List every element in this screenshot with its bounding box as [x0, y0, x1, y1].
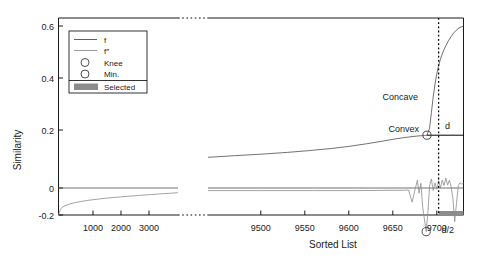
- left-x-tick-label-2: 3000: [139, 223, 159, 233]
- legend-label-min: Min.: [104, 70, 119, 79]
- series-fpp-right-curve: [208, 178, 463, 231]
- legend-patch-selected-icon: [74, 84, 98, 91]
- axis-break: [178, 18, 208, 215]
- y-tick-label-4: -0.2: [38, 211, 54, 221]
- series-fpp-left-curve: [59, 193, 178, 215]
- y-tick-label-0: 0.6: [41, 22, 54, 32]
- annotation-convex: Convex: [388, 124, 419, 134]
- right-panel: 9500 9550 9600 9650 9700 Concave Convex …: [208, 18, 464, 236]
- y-tick-label-1: 0.4: [41, 74, 54, 84]
- right-x-tick-label-1: 9550: [295, 223, 315, 233]
- selected-region-patch: [439, 211, 464, 216]
- series-f-right-curve: [208, 26, 463, 157]
- left-x-tick-label-1: 2000: [111, 223, 131, 233]
- annotation-d-half: d/2: [442, 225, 455, 235]
- right-x-tick-label-0: 9500: [251, 223, 271, 233]
- left-x-ticks: [93, 211, 149, 216]
- x-axis-title: Sorted List: [309, 239, 357, 250]
- legend: f f″ Knee Min. Selected: [69, 31, 147, 93]
- y-tick-label-2: 0.2: [41, 126, 54, 136]
- right-x-ticks: [261, 211, 437, 216]
- y-axis-title: Similarity: [12, 130, 23, 171]
- right-x-tick-label-2: 9600: [339, 223, 359, 233]
- annotation-d: d: [445, 121, 450, 131]
- left-x-tick-label-0: 1000: [83, 223, 103, 233]
- legend-label-knee: Knee: [104, 59, 123, 68]
- legend-label-selected: Selected: [104, 83, 135, 92]
- chart-svg: 0.6 0.4 0.2 0 -0.2 Similarity 1000 2000 …: [0, 0, 483, 279]
- y-tick-label-3: 0: [49, 184, 54, 194]
- y-ticks: [59, 26, 64, 215]
- legend-label-fpp: f″: [104, 47, 109, 56]
- right-x-tick-label-3: 9650: [383, 223, 403, 233]
- annotation-concave: Concave: [382, 92, 418, 102]
- chart-figure: 0.6 0.4 0.2 0 -0.2 Similarity 1000 2000 …: [0, 0, 483, 279]
